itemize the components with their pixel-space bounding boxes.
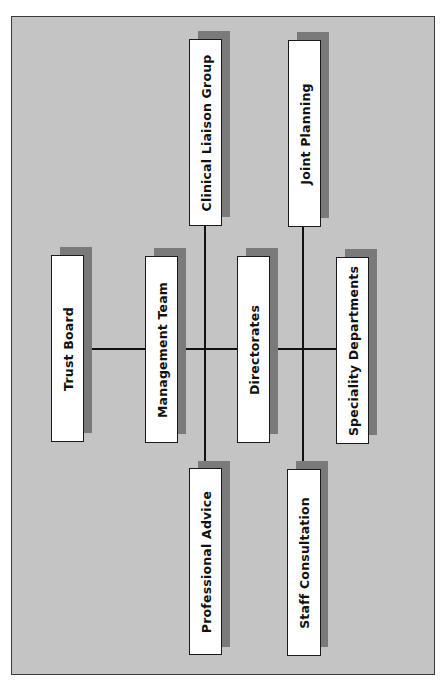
main-horizontal-connector bbox=[84, 348, 337, 350]
node-joint-planning: Joint Planning bbox=[288, 40, 321, 227]
vertical-connector-clinical-professional bbox=[204, 225, 206, 469]
node-label: Clinical Liaison Group bbox=[198, 54, 213, 211]
node-label: Speciality Departments bbox=[345, 265, 360, 435]
node-label: Professional Advice bbox=[198, 490, 213, 632]
node-label: Staff Consultation bbox=[297, 497, 312, 629]
node-staff-consultation: Staff Consultation bbox=[287, 469, 321, 656]
node-label: Joint Planning bbox=[297, 83, 312, 184]
node-directorates: Directorates bbox=[237, 256, 270, 443]
node-clinical-liaison-group: Clinical Liaison Group bbox=[189, 39, 222, 226]
vertical-connector-joint-staff bbox=[302, 225, 304, 469]
node-label: Management Team bbox=[154, 281, 169, 417]
node-label: Trust Board bbox=[60, 307, 75, 391]
node-management-team: Management Team bbox=[145, 256, 178, 443]
node-professional-advice: Professional Advice bbox=[189, 468, 222, 655]
node-label: Directorates bbox=[246, 304, 261, 394]
node-trust-board: Trust Board bbox=[51, 255, 84, 442]
node-speciality-departments: Speciality Departments bbox=[336, 257, 369, 444]
